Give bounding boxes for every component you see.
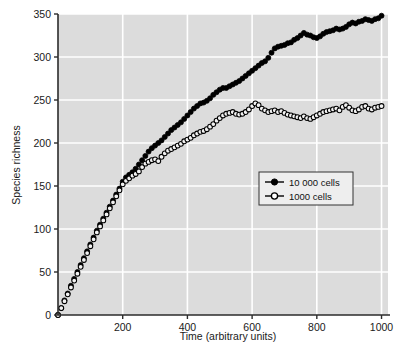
y-tick-label: 0 bbox=[45, 309, 51, 321]
x-tick-label: 1000 bbox=[370, 321, 394, 333]
data-point bbox=[85, 251, 90, 256]
data-point bbox=[72, 278, 77, 283]
data-point bbox=[117, 188, 122, 193]
data-point bbox=[78, 264, 83, 269]
x-tick-label: 800 bbox=[308, 321, 326, 333]
legend-label-1000-cells: 1000 cells bbox=[289, 191, 332, 202]
data-point bbox=[156, 159, 161, 164]
y-axis-title: Species richness bbox=[10, 125, 22, 204]
data-point bbox=[88, 244, 93, 249]
data-point bbox=[69, 285, 74, 290]
data-point bbox=[114, 194, 119, 199]
y-tick-label: 300 bbox=[33, 51, 51, 63]
data-point bbox=[136, 169, 141, 174]
plot-area-background bbox=[58, 14, 388, 315]
legend-marker-open-circle-icon bbox=[271, 193, 277, 199]
data-point bbox=[111, 200, 116, 205]
x-axis-title: Time (arbitrary units) bbox=[180, 330, 276, 342]
data-point bbox=[81, 258, 86, 263]
data-point bbox=[91, 237, 96, 242]
data-point bbox=[104, 212, 109, 217]
data-point bbox=[266, 55, 271, 60]
species-richness-chart: 050100150200250300350 2004006008001000 T… bbox=[0, 0, 415, 358]
data-point bbox=[379, 104, 384, 109]
legend-label-10000-cells: 10 000 cells bbox=[289, 177, 340, 188]
data-point bbox=[62, 299, 67, 304]
y-tick-label: 350 bbox=[33, 8, 51, 20]
y-tick-label: 50 bbox=[39, 266, 51, 278]
data-point bbox=[107, 206, 112, 211]
y-tick-label: 150 bbox=[33, 180, 51, 192]
data-point bbox=[65, 292, 70, 297]
legend-marker-filled-circle-icon bbox=[271, 179, 277, 185]
data-point bbox=[94, 230, 99, 235]
data-point bbox=[75, 271, 80, 276]
chart-legend: 10 000 cells 1000 cells bbox=[259, 172, 353, 205]
x-tick-label: 200 bbox=[114, 321, 132, 333]
y-tick-label: 200 bbox=[33, 137, 51, 149]
chart-figure: 050100150200250300350 2004006008001000 T… bbox=[0, 0, 415, 358]
data-point bbox=[59, 306, 64, 311]
y-tick-label: 250 bbox=[33, 94, 51, 106]
data-point bbox=[143, 153, 148, 158]
y-tick-label: 100 bbox=[33, 223, 51, 235]
data-point bbox=[269, 50, 274, 55]
data-point bbox=[101, 218, 106, 223]
data-point bbox=[98, 224, 103, 229]
data-point bbox=[379, 13, 384, 18]
